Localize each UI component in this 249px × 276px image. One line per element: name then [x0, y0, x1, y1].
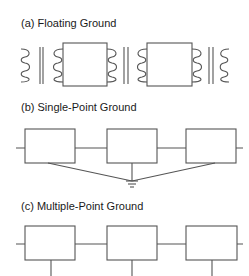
device-box-a2 [147, 43, 192, 86]
panel-a-title: (a) Floating Ground [21, 17, 116, 29]
device-box-b2 [107, 129, 157, 163]
device-box-a1 [63, 43, 107, 86]
device-box-c2 [107, 226, 157, 260]
device-box-b1 [25, 129, 75, 163]
grounding-diagram: (a) Floating Ground (b) Single-Point Gro… [0, 0, 249, 276]
device-box-c1 [25, 226, 75, 260]
device-box-b3 [186, 129, 236, 163]
panel-multiple-point-ground: (c) Multiple-Point Ground [16, 200, 243, 276]
transformer-middle [107, 47, 147, 84]
transformer-left [21, 47, 63, 84]
panel-floating-ground: (a) Floating Ground [21, 17, 229, 86]
panel-b-title: (b) Single-Point Ground [21, 101, 137, 113]
ground-lead-b3 [132, 163, 215, 181]
ground-lead-b1 [48, 163, 132, 181]
ground-icon [126, 181, 138, 187]
panel-single-point-ground: (b) Single-Point Ground [16, 101, 243, 187]
panel-c-title: (c) Multiple-Point Ground [21, 200, 143, 212]
transformer-right [192, 47, 229, 84]
device-box-c3 [186, 226, 237, 260]
